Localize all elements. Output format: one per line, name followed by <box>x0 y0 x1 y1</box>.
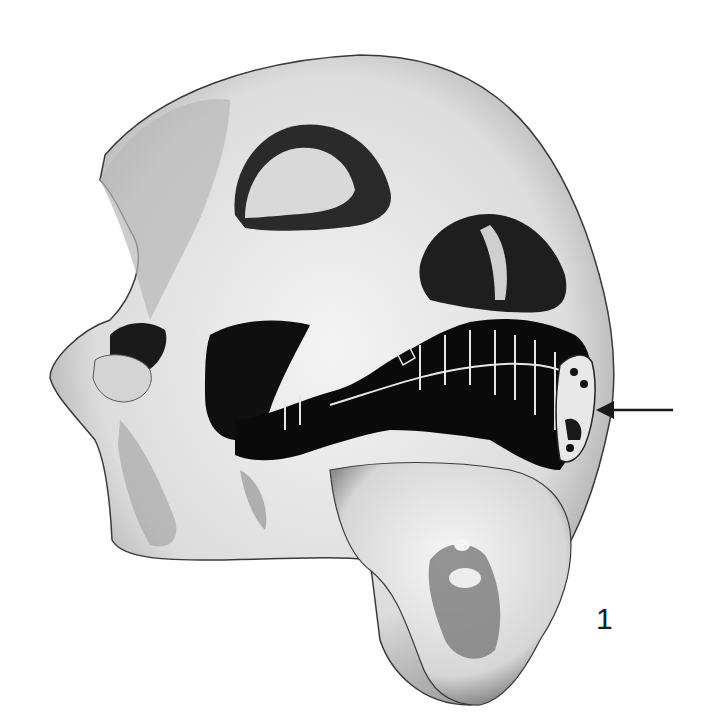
mandible-foramen <box>449 568 481 588</box>
plate-screw-3 <box>566 444 574 452</box>
plate-screw-1 <box>570 368 578 376</box>
figure-number-label: 1 <box>596 604 613 634</box>
plate-screw-2 <box>580 380 588 388</box>
